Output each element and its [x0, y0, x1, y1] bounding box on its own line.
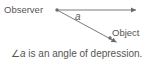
- angle-measure-label: a: [75, 12, 81, 22]
- angle-of-depression-figure: Observer Object a ∠a is an angle of depr…: [0, 0, 152, 66]
- figure-caption: ∠a is an angle of depression.: [11, 49, 142, 59]
- object-label: Object: [112, 28, 139, 38]
- slant-line-of-sight: [57, 10, 117, 42]
- angle-symbol-icon: ∠: [11, 48, 20, 59]
- observer-vertex-dot-icon: [55, 8, 58, 11]
- observer-label: Observer: [4, 5, 43, 15]
- caption-text: is an angle of depression.: [26, 48, 143, 59]
